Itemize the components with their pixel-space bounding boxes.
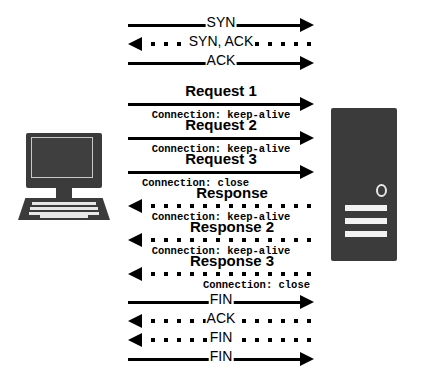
client-computer-icon [18, 133, 114, 233]
arrowhead-right-icon [300, 352, 314, 366]
keyboard-key-row [32, 202, 96, 205]
arrow-line-right [128, 167, 314, 177]
message-label: ACK [206, 52, 237, 68]
monitor-bezel [26, 133, 102, 188]
message-label: Response 3 [128, 253, 314, 269]
server-drive-bay [345, 218, 387, 224]
arrowhead-left-icon [128, 267, 142, 281]
arrow-line-left: ACK [128, 316, 314, 326]
arrow-line-right [128, 99, 314, 109]
monitor-stand [56, 188, 72, 198]
arrow-line-left: FIN [128, 335, 314, 345]
message-row-ack: ACK [128, 58, 314, 68]
message-row-fin-1: FIN [128, 297, 314, 307]
arrow-line-right: ACK [128, 58, 314, 68]
message-label: Request 3 [128, 151, 314, 167]
message-row-syn: SYN [128, 20, 314, 30]
arrowhead-left-icon [128, 333, 142, 347]
arrow-line-left [128, 201, 314, 211]
server-drive-bay [345, 205, 387, 211]
message-row-fin-2: FIN [128, 335, 314, 345]
keyboard-key-row [30, 207, 98, 210]
server-tower-icon [331, 108, 397, 261]
arrowhead-left-icon [128, 314, 142, 328]
arrow-line-right [128, 133, 314, 143]
arrow-line-right: SYN [128, 20, 314, 30]
message-label: Response [128, 185, 314, 201]
message-label: ACK [206, 310, 237, 326]
arrowhead-right-icon [300, 18, 314, 32]
arrow-line-right: FIN [128, 297, 314, 307]
monitor-screen [31, 137, 93, 178]
keyboard-icon [18, 198, 110, 220]
message-label: SYN [206, 14, 237, 30]
arrowhead-right-icon [300, 295, 314, 309]
message-label: FIN [209, 348, 234, 364]
message-row-ack-2: ACK [128, 316, 314, 326]
arrowhead-left-icon [128, 37, 142, 51]
arrow-line-left [128, 269, 314, 279]
arrowhead-right-icon [300, 97, 314, 111]
message-label: Request 2 [128, 117, 314, 133]
arrow-line-left [128, 235, 314, 245]
arrowhead-right-icon [300, 165, 314, 179]
arrowhead-right-icon [300, 131, 314, 145]
message-row-fin-3: FIN [128, 354, 314, 364]
message-header-label: Connection: close [128, 279, 314, 291]
message-label: FIN [209, 291, 234, 307]
message-label: Request 1 [128, 83, 314, 99]
arrow-line-left: SYN, ACK [128, 39, 314, 49]
message-rows: SYN SYN, ACK ACK Request 1 [128, 0, 314, 378]
message-label: Response 2 [128, 219, 314, 235]
message-label: FIN [209, 329, 234, 345]
arrowhead-left-icon [128, 199, 142, 213]
server-drive-bay [345, 231, 387, 237]
sequence-diagram: SYN SYN, ACK ACK Request 1 [0, 0, 426, 378]
arrow-line-right: FIN [128, 354, 314, 364]
arrowhead-right-icon [300, 56, 314, 70]
message-row-response-3: Response 3 Connection: close [128, 253, 314, 291]
keyboard-spacebar [40, 215, 88, 218]
arrowhead-left-icon [128, 233, 142, 247]
message-label: SYN, ACK [188, 33, 255, 49]
power-button-icon [376, 184, 387, 197]
message-row-syn-ack: SYN, ACK [128, 39, 314, 49]
